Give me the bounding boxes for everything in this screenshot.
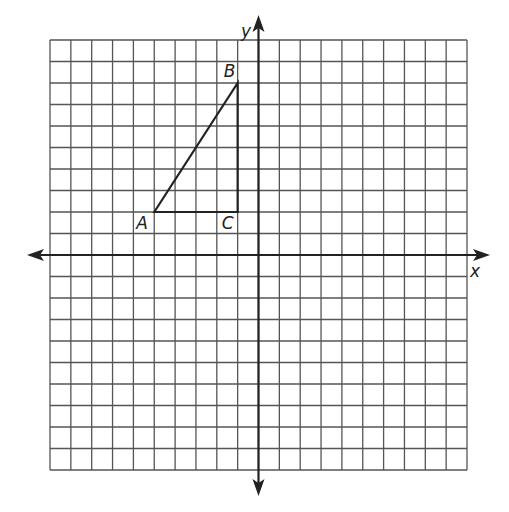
- y-axis-label: y: [240, 21, 252, 41]
- coordinate-plane: xyABC: [0, 0, 509, 512]
- vertex-label-b: B: [224, 61, 236, 81]
- vertex-label-a: A: [135, 213, 148, 233]
- x-axis-label: x: [469, 261, 481, 281]
- vertex-label-c: C: [222, 213, 234, 233]
